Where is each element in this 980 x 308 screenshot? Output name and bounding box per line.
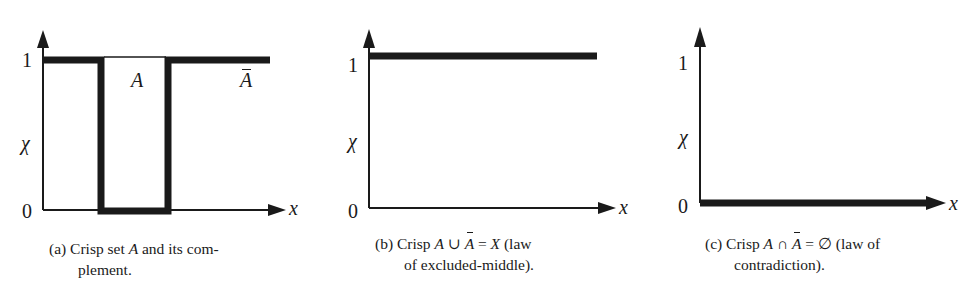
tick-0: 0 [678, 196, 688, 216]
y-axis-label: χ [348, 131, 357, 151]
complement-line [43, 60, 270, 211]
caption-a-text: (a) Crisp set [49, 240, 129, 257]
panel-b: 1 χ 0 x (b) Crisp A ∪ A = X (law of excl… [320, 0, 650, 308]
y-axis-label: χ [679, 127, 688, 147]
y-axis-arrow-icon [694, 27, 706, 47]
caption-c-text-end: = ∅ (law of [801, 235, 880, 252]
caption-b-union: ∪ [444, 235, 465, 252]
caption-a: (a) Crisp set A and its com- plement. [49, 238, 219, 280]
tick-1: 1 [22, 50, 32, 70]
caption-b-set: A [434, 235, 443, 252]
complement-label: A [240, 70, 252, 90]
caption-b-equals: = [474, 235, 491, 252]
y-axis-arrow-icon [363, 29, 375, 48]
y-axis-arrow-icon [37, 30, 49, 48]
panel-c: 1 χ 0 x (c) Crisp A ∩ A = ∅ (law of cont… [650, 0, 980, 308]
tick-0: 0 [348, 201, 358, 221]
caption-a-text-end: and its com- [138, 240, 219, 257]
caption-c-intersect: ∩ [773, 235, 792, 252]
x-axis-arrow-icon [268, 204, 286, 216]
caption-c-text: (c) Crisp [705, 235, 764, 252]
set-a-label: A [131, 70, 143, 90]
caption-b-complement: A [465, 233, 474, 254]
x-axis-label: x [949, 193, 958, 213]
panel-a: 1 χ 0 x A A (a) Crisp set A and its com-… [0, 0, 320, 308]
caption-b: (b) Crisp A ∪ A = X (law of excluded-mid… [375, 233, 534, 275]
caption-b-universe: X [491, 235, 500, 252]
caption-b-text-end: (law [500, 235, 531, 252]
x-axis-label: x [289, 198, 298, 218]
x-axis-label: x [619, 197, 628, 217]
y-axis-label: χ [21, 133, 30, 153]
caption-b-line2: of excluded-middle). [375, 254, 534, 275]
x-axis-arrow-icon [598, 202, 616, 214]
tick-1: 1 [348, 55, 358, 75]
caption-c-line2: contradiction). [705, 254, 880, 275]
caption-c-set: A [764, 235, 773, 252]
caption-a-set: A [129, 240, 138, 257]
tick-0: 0 [22, 201, 32, 221]
caption-a-line2: plement. [49, 259, 219, 280]
caption-c: (c) Crisp A ∩ A = ∅ (law of contradictio… [705, 233, 880, 275]
caption-c-complement: A [792, 233, 801, 254]
caption-b-text: (b) Crisp [375, 235, 434, 252]
tick-1: 1 [678, 53, 688, 73]
x-axis-arrow-icon [926, 196, 946, 210]
